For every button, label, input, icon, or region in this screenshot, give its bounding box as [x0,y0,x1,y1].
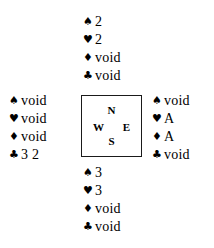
suit-cards-clubs: 3 2 [21,146,39,164]
club-icon: ♣ [9,146,21,164]
hand-north: ♠ 2 ♥ 2 ♦ void ♣ void [83,13,121,85]
suit-row-spades: ♠ 2 [83,13,121,31]
suit-cards-diamonds: void [95,49,121,67]
suit-row-diamonds: ♦ A [152,128,190,146]
hand-east: ♠ void ♥ A ♦ A ♣ void [152,92,190,164]
suit-row-hearts: ♥ A [152,110,190,128]
suit-cards-hearts: void [21,110,47,128]
suit-cards-hearts: A [164,110,174,128]
suit-row-hearts: ♥ 2 [83,31,121,49]
suit-cards-hearts: 2 [95,31,102,49]
spade-icon: ♠ [9,92,21,110]
suit-cards-diamonds: A [164,128,174,146]
suit-cards-spades: void [164,92,190,110]
suit-cards-diamonds: void [21,128,47,146]
suit-cards-spades: 2 [95,13,102,31]
suit-row-spades: ♠ 3 [83,164,121,182]
suit-row-clubs: ♣ void [83,67,121,85]
suit-row-clubs: ♣ 3 2 [9,146,47,164]
spade-icon: ♠ [83,13,95,31]
suit-cards-clubs: void [95,67,121,85]
suit-cards-clubs: void [164,146,190,164]
club-icon: ♣ [152,146,164,164]
suit-row-clubs: ♣ void [83,218,121,236]
compass-label-south: S [82,136,141,147]
suit-cards-spades: 3 [95,164,102,182]
compass-label-west: W [93,122,104,133]
suit-row-diamonds: ♦ void [83,200,121,218]
spade-icon: ♠ [152,92,164,110]
suit-row-spades: ♠ void [9,92,47,110]
compass-label-north: N [82,105,141,116]
diamond-icon: ♦ [9,128,21,146]
suit-row-spades: ♠ void [152,92,190,110]
diamond-icon: ♦ [83,200,95,218]
suit-cards-clubs: void [95,218,121,236]
heart-icon: ♥ [83,31,95,49]
suit-row-clubs: ♣ void [152,146,190,164]
suit-row-hearts: ♥ 3 [83,182,121,200]
spade-icon: ♠ [83,164,95,182]
heart-icon: ♥ [83,182,95,200]
suit-cards-spades: void [21,92,47,110]
club-icon: ♣ [83,67,95,85]
bridge-hand-diagram: ♠ 2 ♥ 2 ♦ void ♣ void ♠ void ♥ void ♦ vo… [0,0,214,248]
suit-cards-hearts: 3 [95,182,102,200]
suit-row-diamonds: ♦ void [83,49,121,67]
heart-icon: ♥ [152,110,164,128]
suit-row-diamonds: ♦ void [9,128,47,146]
diamond-icon: ♦ [152,128,164,146]
hand-west: ♠ void ♥ void ♦ void ♣ 3 2 [9,92,47,164]
suit-row-hearts: ♥ void [9,110,47,128]
heart-icon: ♥ [9,110,21,128]
hand-south: ♠ 3 ♥ 3 ♦ void ♣ void [83,164,121,236]
diamond-icon: ♦ [83,49,95,67]
compass-label-east: E [123,122,130,133]
club-icon: ♣ [83,218,95,236]
compass-box: N W E S [81,95,142,157]
suit-cards-diamonds: void [95,200,121,218]
